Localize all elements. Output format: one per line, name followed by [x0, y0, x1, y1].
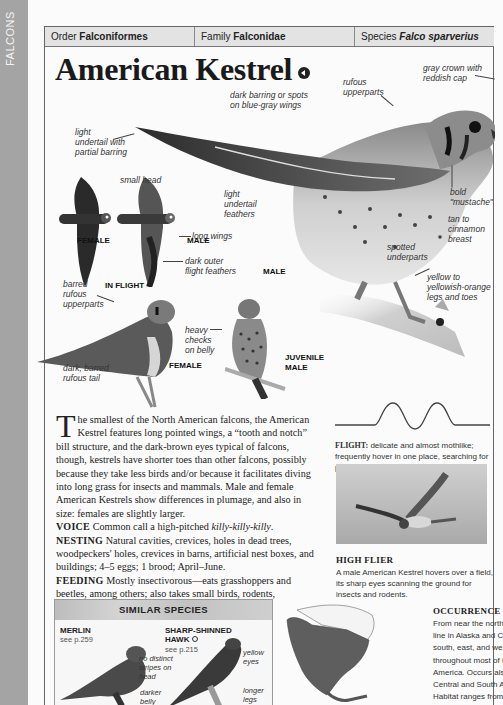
leader-line: [210, 329, 222, 330]
species-description: The smallest of the North American falco…: [56, 413, 318, 614]
tag-male: MALE: [263, 267, 286, 277]
range-map: [277, 600, 387, 705]
species-page: Order Falconiformes Family Falconidae Sp…: [44, 26, 494, 705]
juvenile-male-illustration: [225, 299, 295, 399]
female-perched-illustration: [37, 297, 187, 417]
tag-in-flight: IN FLIGHT: [105, 281, 144, 291]
merlin-name: MERLIN: [60, 626, 91, 635]
label-bold-mustache: bold"mustache": [450, 187, 493, 207]
nesting-paragraph: NESTING Natural cavities, crevices, hole…: [56, 534, 318, 574]
label-rufous-upperparts: rufousupperparts: [343, 77, 384, 97]
species-label: Species: [361, 31, 397, 42]
label-barred-upperparts: barredrufousupperparts: [63, 279, 104, 309]
label-tan-breast: tan tocinnamonbreast: [448, 214, 485, 244]
sharp-shinned-hawk-illustration: [165, 636, 245, 705]
occurrence-text: From near the northern tree line in Alas…: [433, 618, 503, 705]
voice-paragraph: VOICE Common call a high-pitched killy-k…: [56, 520, 318, 533]
similar-species-box: SIMILAR SPECIES MERLIN see p.259 SHARP-S…: [54, 599, 273, 705]
high-flier-photo: [336, 464, 487, 544]
label-yellow-legs: yellow toyellowish-orangelegs and toes: [427, 272, 491, 302]
tag-female-flight: FEMALE: [77, 236, 110, 246]
label-light-undertail-feathers: lightundertailfeathers: [224, 189, 257, 219]
leader-line: [452, 166, 453, 188]
tag-female-perched: FEMALE: [169, 361, 202, 371]
photo-heading: HIGH FLIER: [336, 555, 393, 565]
species-cell: Species Falco sparverius: [355, 27, 494, 46]
female-flight-illustration: [59, 177, 119, 287]
label-dark-barring: dark barring or spotson blue-gray wings: [230, 90, 308, 110]
occurrence-heading: OCCURRENCE: [433, 606, 501, 616]
tag-male-flight: MALE: [187, 236, 210, 246]
family-cell: Family Falconidae: [195, 27, 355, 46]
leader-line: [163, 261, 183, 262]
similar-species-heading: SIMILAR SPECIES: [55, 600, 272, 620]
section-label: FALCONS: [4, 6, 16, 66]
tag-juvenile-male: JUVENILEMALE: [285, 353, 324, 373]
order-cell: Order Falconiformes: [45, 27, 195, 46]
label-gray-crown: gray crown withreddish cap: [423, 63, 482, 83]
order-label: Order: [51, 31, 77, 42]
taxonomy-bar: Order Falconiformes Family Falconidae Sp…: [45, 27, 494, 47]
male-flight-illustration: [117, 177, 177, 287]
label-small-head: small head: [120, 175, 161, 185]
label-light-undertail: lightundertail withpartial barring: [75, 127, 127, 157]
order-value: Falconiformes: [79, 31, 147, 42]
family-label: Family: [201, 31, 230, 42]
label-dark-outer-feathers: dark outerflight feathers: [185, 256, 236, 276]
merlin-illustration: [60, 638, 150, 705]
hawk-label-legs: longerlegs: [243, 686, 264, 704]
section-side-tab: FALCONS: [0, 0, 28, 705]
label-dark-barred-tail: dark, barredrufous tail: [63, 363, 109, 383]
family-value: Falconidae: [233, 31, 285, 42]
merlin-label-belly: darkerbelly: [140, 688, 161, 705]
label-spotted-underparts: spottedunderparts: [387, 242, 428, 262]
hawk-label-eyes: yelloweyes: [243, 648, 264, 666]
flight-pattern-diagram: [335, 401, 490, 431]
species-value: Falco sparverius: [399, 31, 478, 42]
photo-caption: A male American Kestrel hovers over a fi…: [336, 567, 496, 600]
intro-paragraph: The smallest of the North American falco…: [56, 413, 318, 520]
